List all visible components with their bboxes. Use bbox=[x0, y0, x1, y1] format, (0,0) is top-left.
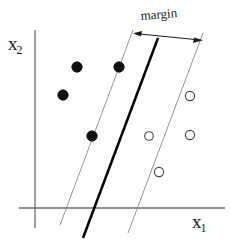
margin-arrow-shaft bbox=[135, 34, 200, 41]
data-point-filled-support-vector bbox=[114, 62, 124, 72]
y-axis-label: x2 bbox=[8, 33, 23, 58]
data-point-open bbox=[185, 91, 194, 100]
margin-annotation-label: margin bbox=[140, 5, 178, 24]
negative-class-points bbox=[145, 91, 195, 176]
positive-class-points bbox=[58, 62, 124, 141]
data-point-filled bbox=[58, 90, 68, 100]
margin-arrowhead-right bbox=[193, 38, 203, 43]
margin-arrowhead-left bbox=[133, 31, 142, 36]
data-point-filled-support-vector bbox=[87, 131, 97, 141]
svm-margin-figure: margin x2 x1 bbox=[0, 0, 231, 249]
upper-margin-line bbox=[60, 30, 133, 225]
margin-dimension-arrow bbox=[133, 31, 203, 43]
x-axis-label: x1 bbox=[192, 211, 207, 236]
x-axis-label-subscript: 1 bbox=[201, 221, 207, 235]
data-point-open bbox=[154, 167, 163, 176]
data-point-open-support-vector bbox=[145, 132, 154, 141]
y-axis-label-subscript: 2 bbox=[17, 43, 23, 57]
data-point-open bbox=[185, 130, 194, 139]
data-point-filled bbox=[72, 62, 82, 72]
margin-lines-group bbox=[60, 30, 203, 233]
